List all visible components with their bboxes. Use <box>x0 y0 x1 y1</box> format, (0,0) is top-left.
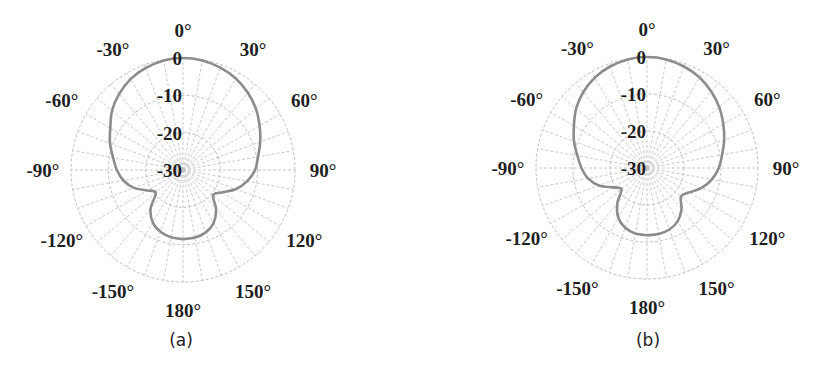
angle-label: -30° <box>561 38 594 59</box>
angular-gridline <box>183 170 280 226</box>
angular-gridline <box>164 170 183 280</box>
angular-gridline <box>183 170 202 280</box>
angular-gridline <box>183 60 202 170</box>
angular-gridline <box>647 113 743 169</box>
angle-label: -90° <box>492 158 525 179</box>
angle-label: -90° <box>27 160 60 181</box>
angular-gridline <box>647 149 756 168</box>
radial-tick-label: -30 <box>157 160 182 181</box>
angular-gridline <box>628 168 647 277</box>
angular-gridline <box>647 72 703 168</box>
angle-label: -30° <box>97 39 130 60</box>
angle-label: 120° <box>749 228 785 249</box>
angular-gridline <box>647 130 751 168</box>
radial-tick-label: -20 <box>621 121 646 142</box>
angle-label: -120° <box>505 228 547 249</box>
angular-gridline <box>164 60 183 170</box>
angular-gridline <box>647 168 751 206</box>
polar-plot-b: 0-10-20-300°30°60°90°120°150°180°-150°-1… <box>406 0 812 379</box>
angular-gridline <box>183 132 288 170</box>
angle-label: -60° <box>510 89 543 110</box>
angle-label: 30° <box>703 38 730 59</box>
angle-label: 0° <box>638 19 655 40</box>
angular-gridline <box>592 168 648 264</box>
angle-label: 30° <box>240 39 267 60</box>
angular-gridline <box>145 65 183 170</box>
angular-gridline <box>647 168 756 187</box>
angular-gridline <box>127 170 183 267</box>
pattern-curve <box>574 57 725 235</box>
polar-grid <box>536 57 758 279</box>
polar-plot-b-panel: 0-10-20-300°30°60°90°120°150°180°-150°-1… <box>406 0 812 379</box>
angle-label: -120° <box>41 230 83 251</box>
angle-label: 60° <box>291 90 318 111</box>
radial-tick-label: -10 <box>621 84 646 105</box>
angular-gridline <box>183 114 280 170</box>
radial-tick-label: 0 <box>173 48 183 69</box>
angular-gridline <box>183 73 239 170</box>
angular-gridline <box>647 168 703 264</box>
radial-tick-label: 0 <box>637 47 647 68</box>
angle-label: 60° <box>754 89 781 110</box>
angular-gridline <box>647 64 685 168</box>
angle-label: 120° <box>286 230 322 251</box>
caption-b: (b) <box>618 330 678 350</box>
radial-tick-label: -10 <box>157 85 182 106</box>
polar-grid <box>71 58 295 282</box>
angular-gridline <box>609 64 647 168</box>
angular-gridline <box>609 168 647 272</box>
angular-gridline <box>647 168 743 224</box>
angle-label: -150° <box>556 278 598 299</box>
angular-gridline <box>628 59 647 168</box>
angular-gridline <box>145 170 183 275</box>
angular-gridline <box>183 151 293 170</box>
angular-gridline <box>647 168 666 277</box>
angle-label: 90° <box>773 158 800 179</box>
angle-label: 180° <box>629 297 665 318</box>
angular-gridline <box>183 170 221 275</box>
radial-tick-label: -20 <box>157 123 182 144</box>
angular-gridline <box>647 59 666 168</box>
angular-gridline <box>183 65 221 170</box>
polar-plot-a: 0-10-20-300°30°60°90°120°150°180°-150°-1… <box>0 0 406 379</box>
angle-label: -60° <box>45 90 78 111</box>
angle-label: 90° <box>310 160 337 181</box>
angle-label: 0° <box>174 20 191 41</box>
angle-label: -150° <box>92 281 134 302</box>
angular-gridline <box>183 170 239 267</box>
caption-a: (a) <box>151 330 211 350</box>
angular-gridline <box>111 170 183 256</box>
angle-label: 150° <box>698 278 734 299</box>
angle-label: 150° <box>235 281 271 302</box>
angle-label: 180° <box>165 300 201 321</box>
radial-tick-label: -30 <box>621 158 646 179</box>
polar-plot-a-panel: 0-10-20-300°30°60°90°120°150°180°-150°-1… <box>0 0 406 379</box>
